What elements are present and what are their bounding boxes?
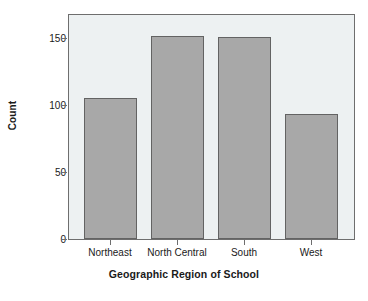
- bar-northeast[interactable]: [84, 98, 137, 239]
- x-tick-label-north-central: North Central: [147, 247, 206, 259]
- y-tick-mark-50: [62, 172, 67, 173]
- bar-south[interactable]: [218, 37, 271, 239]
- y-axis-ticks: 150 100 50 0: [20, 0, 66, 301]
- y-tick-mark-100: [62, 105, 67, 106]
- y-axis-title: Count: [7, 86, 18, 146]
- bar-chart-figure: Count 150 100 50 0 Northeast North Centr…: [0, 0, 368, 301]
- x-tick-mark-south: [244, 240, 245, 245]
- y-tick-label-0: 0: [26, 235, 66, 245]
- x-tick-label-south: South: [231, 247, 257, 259]
- bar-west[interactable]: [285, 114, 338, 239]
- y-tick-label-150: 150: [26, 34, 66, 44]
- y-tick-mark-150: [62, 38, 67, 39]
- x-tick-label-west: West: [300, 247, 323, 259]
- x-axis-title: Geographic Region of School: [0, 268, 368, 280]
- y-tick-label-100: 100: [26, 101, 66, 111]
- x-tick-mark-north-central: [177, 240, 178, 245]
- y-tick-label-50: 50: [26, 168, 66, 178]
- bar-series: [69, 15, 354, 239]
- x-tick-mark-northeast: [110, 240, 111, 245]
- x-tick-label-northeast: Northeast: [88, 247, 131, 259]
- x-tick-mark-west: [311, 240, 312, 245]
- bar-north-central[interactable]: [151, 36, 204, 239]
- y-tick-mark-0: [62, 239, 67, 240]
- plot-area: [68, 14, 355, 240]
